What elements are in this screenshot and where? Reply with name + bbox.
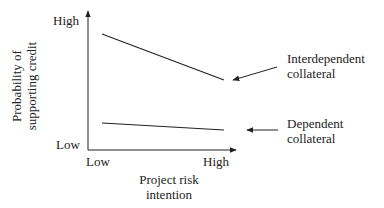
interdependent-collateral-label: Interdependent collateral: [287, 51, 365, 81]
interdependent-collateral-line: [102, 34, 224, 80]
x-axis-title-line2: intention: [126, 187, 212, 202]
dependent-collateral-label: Dependent collateral: [287, 116, 343, 146]
y-tick-high: High: [53, 13, 79, 28]
interdependent-label-line1: Interdependent: [287, 51, 365, 66]
dependent-collateral-line: [102, 123, 224, 130]
x-tick-low: Low: [86, 154, 110, 169]
y-axis-title: Probability of supporting credit: [9, 42, 39, 130]
dependent-label-line1: Dependent: [287, 116, 343, 131]
y-axis-title-line1: Probability of: [9, 42, 24, 130]
interdependent-label-line2: collateral: [287, 66, 365, 81]
x-axis-title: Project risk intention: [126, 172, 212, 202]
interdependent-arrow: [233, 67, 277, 80]
y-tick-low: Low: [56, 137, 80, 152]
x-axis-title-line1: Project risk: [126, 172, 212, 187]
y-axis-title-line2: supporting credit: [24, 42, 39, 130]
x-tick-high: High: [203, 154, 229, 169]
dependent-label-line2: collateral: [287, 131, 343, 146]
